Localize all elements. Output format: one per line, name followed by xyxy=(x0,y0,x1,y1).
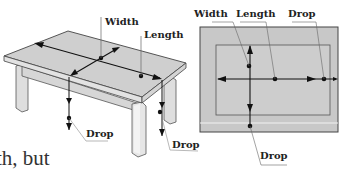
label-drop-right: Drop xyxy=(172,139,200,150)
label-length-left: Length xyxy=(144,29,184,40)
table-plan-diagram: Width Length Drop Drop xyxy=(193,8,338,165)
table-measurement-figure: Width Length Drop Drop Width Length Drop… xyxy=(0,0,341,172)
label-width-left: Width xyxy=(104,16,139,27)
label-drop-bottom-right: Drop xyxy=(260,150,288,161)
table-perspective-diagram: Width Length Drop Drop xyxy=(4,16,200,157)
label-length-right: Length xyxy=(236,8,276,19)
label-drop-top-right: Drop xyxy=(288,8,316,19)
label-width-right: Width xyxy=(193,8,228,19)
label-drop-left: Drop xyxy=(86,128,114,139)
body-text-fragment: th, but xyxy=(0,146,50,171)
